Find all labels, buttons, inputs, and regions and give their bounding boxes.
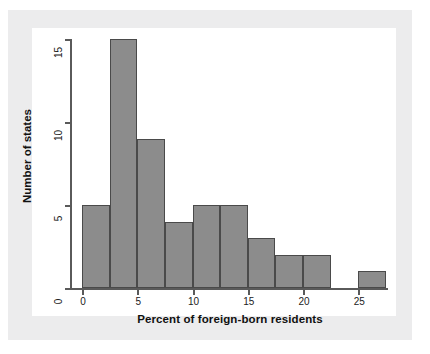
x-axis-tick — [82, 290, 84, 295]
y-axis-tick — [65, 288, 70, 290]
x-axis-tick — [193, 290, 195, 295]
y-axis-tick — [65, 122, 70, 124]
histogram-bar — [82, 205, 110, 288]
histogram-bar — [193, 205, 221, 288]
x-axis-tick — [358, 290, 360, 295]
histogram-bar — [303, 255, 331, 288]
histogram-bar — [275, 255, 303, 288]
y-axis-tick — [65, 39, 70, 41]
x-axis-label: Percent of foreign-born residents — [70, 313, 390, 325]
y-axis-tick-label: 15 — [53, 38, 64, 68]
y-axis-label: Number of states — [21, 91, 33, 221]
x-axis-tick-label: 0 — [71, 296, 95, 307]
x-axis-tick-label: 15 — [237, 296, 261, 307]
histogram-bar — [248, 238, 276, 288]
x-axis-line — [70, 288, 388, 290]
x-axis-tick — [137, 290, 139, 295]
x-axis-tick-label: 20 — [292, 296, 316, 307]
y-axis-line — [70, 39, 72, 289]
x-axis-tick-label: 5 — [126, 296, 150, 307]
y-axis-tick-label: 0 — [53, 287, 64, 317]
y-axis-tick — [65, 205, 70, 207]
y-axis-tick-label: 5 — [53, 204, 64, 234]
x-axis-tick — [248, 290, 250, 295]
x-axis-tick-label: 25 — [347, 296, 371, 307]
x-axis-tick — [303, 290, 305, 295]
histogram-bar — [110, 39, 138, 288]
histogram-bar — [220, 205, 248, 288]
x-axis-tick-label: 10 — [182, 296, 206, 307]
histogram-bar — [137, 139, 165, 288]
histogram-figure: 051015 0510152025 Percent of foreign-bor… — [0, 0, 430, 354]
y-axis-tick-label: 10 — [53, 121, 64, 151]
histogram-bar — [358, 271, 386, 288]
histogram-bar — [165, 222, 193, 288]
